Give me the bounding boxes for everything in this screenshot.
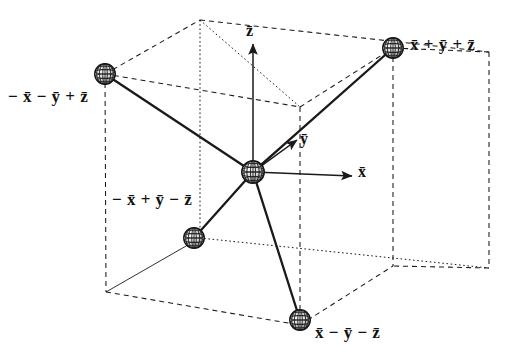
atom-pmm — [290, 310, 311, 331]
atom-mmp — [95, 64, 116, 85]
cube-edge-bot-front-left — [106, 292, 300, 325]
cube-edge-bot-back — [200, 238, 489, 268]
bond-pmm — [253, 172, 300, 320]
ligand-label-ppp: x̄ + ȳ + z̄ — [410, 35, 475, 55]
cube-edge-vert-front-left — [105, 74, 106, 292]
bond-mmp — [105, 74, 253, 172]
cube-edge-bot-front-right — [300, 266, 393, 325]
bond-ppp — [253, 48, 393, 172]
bond-mpm — [194, 172, 253, 238]
cube-wireframe — [105, 20, 489, 325]
axis-arrows — [253, 44, 352, 176]
ligand-label-pmm: x̄ − ȳ − z̄ — [315, 323, 380, 343]
axis-arrow-x — [253, 172, 352, 176]
bond-layer — [105, 48, 393, 320]
axis-label-y: ȳ — [300, 130, 308, 148]
axis-label-x: x̄ — [358, 163, 366, 181]
cube-edge-top-front-right — [300, 48, 393, 107]
figure-canvas: x̄ + ȳ + z̄ − x̄ − ȳ + z̄ − x̄ + ȳ − … — [0, 0, 513, 359]
atom-layer — [95, 38, 404, 331]
atom-ppp — [383, 38, 404, 59]
cube-edge-top-left-back — [105, 20, 200, 74]
cube-edge-bot-right-front — [393, 266, 489, 268]
ligand-label-mpm: − x̄ + ȳ − z̄ — [112, 190, 192, 210]
ligand-label-mmp: − x̄ − ȳ + z̄ — [8, 87, 88, 107]
cube-edge-top-front-left — [105, 74, 300, 107]
cube-edge-bot-left-back — [106, 238, 200, 292]
atom-central — [242, 161, 264, 183]
axis-label-z: z̄ — [246, 22, 253, 40]
atom-mpm — [184, 228, 205, 249]
